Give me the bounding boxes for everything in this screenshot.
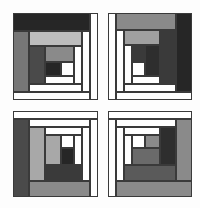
quilt-patch <box>132 62 145 76</box>
quilt-patch <box>45 46 74 62</box>
quilt-patch <box>124 165 176 181</box>
quilt-patch <box>13 13 90 31</box>
quilt-patch <box>108 13 116 100</box>
quilt-patch <box>29 127 45 181</box>
quilt-patch <box>116 13 176 30</box>
quilt-patch <box>74 135 82 165</box>
quilt-patch <box>176 119 192 181</box>
quilt-patch <box>145 45 160 76</box>
quilt-patch <box>124 45 132 84</box>
quilt-patch <box>124 135 132 165</box>
quilt-patch <box>29 46 45 84</box>
quilt-patch <box>145 135 160 148</box>
quilt-patch <box>13 111 98 119</box>
quilt-patch <box>45 62 61 76</box>
quilt-patch <box>176 13 192 92</box>
quilt-patch <box>82 31 90 92</box>
quilt-patch <box>124 30 160 45</box>
quilt-patch <box>29 119 90 127</box>
quilt-patch <box>124 84 176 92</box>
quilt-patch <box>90 13 98 100</box>
quilt-patch <box>132 76 160 84</box>
quilt-patch <box>29 181 90 197</box>
quilt-patch <box>160 127 176 165</box>
quilt-patch <box>13 92 90 100</box>
quilt-patch <box>82 127 90 181</box>
quilt-patch <box>45 76 74 84</box>
quilt-patch <box>124 127 160 135</box>
quilt-patch <box>116 119 176 127</box>
quilt-patch <box>116 127 124 181</box>
quilt-patch <box>132 148 160 165</box>
quilt-patch <box>29 84 82 92</box>
quilt-patch <box>61 148 74 165</box>
quilt-patch <box>108 111 192 119</box>
quilt-patch <box>61 62 74 76</box>
quilt-patch <box>45 165 82 181</box>
quilt-patch <box>116 181 192 197</box>
quilt-patch <box>74 46 82 84</box>
quilt-patch <box>116 30 124 92</box>
quilt-canvas <box>0 0 200 208</box>
quilt-patch <box>132 45 145 62</box>
quilt-patch <box>13 31 29 92</box>
quilt-patch <box>132 135 145 148</box>
quilt-patch <box>29 31 82 46</box>
quilt-patch <box>108 119 116 197</box>
quilt-patch <box>13 119 29 197</box>
quilt-patch <box>45 127 82 135</box>
quilt-patch <box>45 135 61 165</box>
quilt-patch <box>61 135 74 148</box>
quilt-patch <box>160 30 176 84</box>
quilt-patch <box>116 92 192 100</box>
quilt-patch <box>90 119 98 197</box>
